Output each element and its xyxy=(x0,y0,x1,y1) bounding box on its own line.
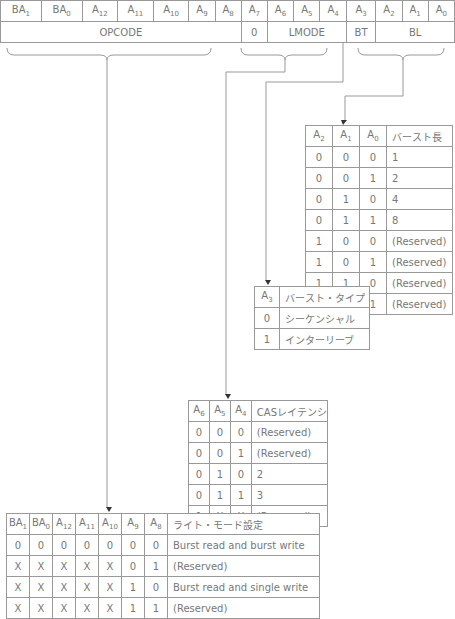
table-row: XXXXX01(Reserved) xyxy=(7,556,320,577)
cell: 0 xyxy=(306,168,333,189)
bit-cell: BA1 xyxy=(1,1,42,22)
header-cell: A8 xyxy=(145,514,168,535)
bit-cell: A11 xyxy=(118,1,154,22)
cell: 0 xyxy=(230,422,251,443)
bit-cell: A10 xyxy=(153,1,189,22)
header-cell: A12 xyxy=(53,514,76,535)
table-row: 001(Reserved) xyxy=(189,443,328,464)
cell: X xyxy=(53,598,76,619)
table-row: 100(Reserved) xyxy=(306,231,453,252)
cell: 1 xyxy=(306,231,333,252)
cell: 0 xyxy=(306,147,333,168)
cell: (Reserved) xyxy=(387,273,453,294)
table-row: 0001 xyxy=(306,147,453,168)
cell: (Reserved) xyxy=(251,443,327,464)
cell: X xyxy=(99,556,122,577)
cell: 0 xyxy=(122,556,145,577)
cell: 1 xyxy=(230,443,251,464)
cell: (Reserved) xyxy=(168,556,320,577)
cell: X xyxy=(53,577,76,598)
mode-register-table: BA1 BA0 A12 A11 A10 A9 A8 A7 A6 A5 A4 A3… xyxy=(0,0,455,43)
cell: 0 xyxy=(333,147,360,168)
cell: 1 xyxy=(122,598,145,619)
cell: X xyxy=(7,577,30,598)
cell: 1 xyxy=(306,252,333,273)
cell: 0 xyxy=(230,464,251,485)
cell: シーケンシャル xyxy=(280,308,370,329)
header-row: A6 A5 A4 CASレイテンシ xyxy=(189,401,328,422)
cell: 0 xyxy=(189,485,210,506)
cell: 0 xyxy=(306,189,333,210)
cell: 0 xyxy=(7,535,30,556)
cell: 4 xyxy=(387,189,453,210)
cell: X xyxy=(30,598,53,619)
bit-row: BA1 BA0 A12 A11 A10 A9 A8 A7 A6 A5 A4 A3… xyxy=(1,1,455,22)
header-cell: A4 xyxy=(230,401,251,422)
bit-cell: A1 xyxy=(402,1,428,22)
field-opcode: OPCODE xyxy=(1,22,242,43)
table-row: 0118 xyxy=(306,210,453,231)
field-row: OPCODE 0 LMODE BT BL xyxy=(1,22,455,43)
cell: X xyxy=(76,598,99,619)
cell: 2 xyxy=(387,168,453,189)
cell: X xyxy=(53,556,76,577)
cell: インターリーブ xyxy=(280,329,370,350)
table-row: 0012 xyxy=(306,168,453,189)
header-cell: A0 xyxy=(360,126,387,147)
cell: 8 xyxy=(387,210,453,231)
field-bt: BT xyxy=(346,22,376,43)
bit-cell: A8 xyxy=(215,1,241,22)
cell: 1 xyxy=(360,210,387,231)
bit-cell: A12 xyxy=(82,1,118,22)
burst-type-table: A3 バースト・タイプ 0シーケンシャル 1インターリーブ xyxy=(254,286,370,350)
field-bl: BL xyxy=(376,22,455,43)
cell: 0 xyxy=(189,443,210,464)
header-row: A3 バースト・タイプ xyxy=(255,287,370,308)
cell: 0 xyxy=(189,464,210,485)
field-lmode: LMODE xyxy=(267,22,346,43)
cell: 0 xyxy=(76,535,99,556)
cell: 0 xyxy=(333,168,360,189)
cell: (Reserved) xyxy=(387,252,453,273)
header-cell: A2 xyxy=(306,126,333,147)
table-row: 0シーケンシャル xyxy=(255,308,370,329)
cell: X xyxy=(30,577,53,598)
cell: (Reserved) xyxy=(387,231,453,252)
header-cell: A10 xyxy=(99,514,122,535)
cell: 0 xyxy=(333,252,360,273)
cell: X xyxy=(99,577,122,598)
cell: (Reserved) xyxy=(168,598,320,619)
header-cell: A5 xyxy=(209,401,230,422)
bit-cell: A2 xyxy=(376,1,402,22)
table-row: 101(Reserved) xyxy=(306,252,453,273)
cell: 1 xyxy=(387,147,453,168)
cell: X xyxy=(76,556,99,577)
cell: 0 xyxy=(360,147,387,168)
bit-cell: A7 xyxy=(241,1,267,22)
bit-cell: A4 xyxy=(320,1,346,22)
cell: 0 xyxy=(306,210,333,231)
cell: X xyxy=(7,598,30,619)
bit-cell: A5 xyxy=(294,1,320,22)
cell: 0 xyxy=(209,443,230,464)
cell: 0 xyxy=(333,231,360,252)
cell: X xyxy=(7,556,30,577)
cell: X xyxy=(76,577,99,598)
bit-cell: BA0 xyxy=(41,1,82,22)
cell: Burst read and single write xyxy=(168,577,320,598)
header-row: A2 A1 A0 バースト長 xyxy=(306,126,453,147)
cell: 1 xyxy=(333,210,360,231)
cell: 0 xyxy=(255,308,280,329)
header-cell: BA0 xyxy=(30,514,53,535)
header-cell: ライト・モード設定 xyxy=(168,514,320,535)
cell: (Reserved) xyxy=(387,294,453,315)
cell: 0 xyxy=(99,535,122,556)
header-cell: BA1 xyxy=(7,514,30,535)
table-row: 0113 xyxy=(189,485,328,506)
cell: Burst read and burst write xyxy=(168,535,320,556)
cell: 1 xyxy=(209,485,230,506)
field-a7-zero: 0 xyxy=(241,22,267,43)
cell: 0 xyxy=(209,422,230,443)
table-row: 0104 xyxy=(306,189,453,210)
header-cell: バースト・タイプ xyxy=(280,287,370,308)
